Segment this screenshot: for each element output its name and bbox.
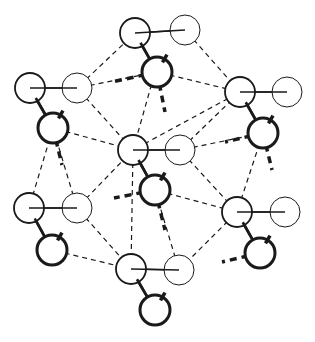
- covalent-bond-inner: [131, 269, 179, 270]
- hydrogen-bond-line: [131, 163, 133, 256]
- covalent-bond-inner: [243, 222, 253, 240]
- hydrogen-bond-line: [57, 140, 74, 195]
- hydrogen-bond-line: [86, 218, 123, 260]
- hydrogen-bond-line: [188, 221, 228, 261]
- covalent-bond-inner: [246, 102, 256, 120]
- heavy-atom-circle: [140, 295, 170, 325]
- hydrogen-bond-line: [170, 75, 228, 89]
- strong-bond-line: [112, 75, 145, 82]
- molecule-unit-right-upper: [225, 77, 302, 148]
- hydrogen-bond-line: [65, 253, 119, 266]
- covalent-bond-inner: [139, 160, 148, 177]
- hydrogen-bond-line: [86, 159, 124, 198]
- covalent-bond-inner: [35, 219, 45, 237]
- heavy-atom-circle: [248, 118, 278, 148]
- heavy-atom-circle: [38, 113, 68, 143]
- molecular-lattice-diagram: [0, 0, 315, 342]
- hydrogen-bond-line: [189, 160, 228, 203]
- hydrogen-bond-line: [86, 98, 125, 141]
- heavy-atom-circle: [37, 235, 67, 265]
- heavy-atom-circle: [140, 175, 170, 205]
- hydrogen-bond-line: [194, 40, 232, 83]
- hydrogen-bond-line: [168, 193, 225, 208]
- lattice-canvas: [0, 0, 315, 342]
- molecule-unit-bottom: [116, 254, 194, 325]
- hydrogen-bond-line: [33, 140, 50, 195]
- heavy-atom-circle: [245, 238, 275, 268]
- molecule-unit-right-lower: [222, 197, 300, 268]
- hydrogen-bond-line: [137, 85, 152, 138]
- hydrogen-bond-line: [241, 145, 259, 199]
- hydrogen-bond-line: [86, 42, 125, 79]
- molecule-unit-left-lower: [14, 193, 92, 265]
- atom-nodes: [14, 15, 302, 325]
- heavy-atom-circle: [142, 57, 172, 87]
- hydrogen-bond-line: [159, 202, 176, 257]
- molecule-unit-left-upper: [15, 73, 92, 143]
- covalent-bond-inner: [36, 98, 46, 115]
- hydrogen-bond-line: [193, 136, 251, 148]
- covalent-bond-inner: [137, 279, 147, 297]
- hydrogen-bond-line: [66, 131, 121, 146]
- hydrogen-bond-line: [189, 101, 230, 141]
